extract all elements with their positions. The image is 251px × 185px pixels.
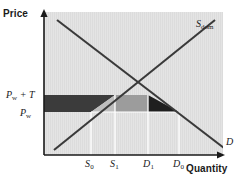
- price-label-pw-plus-t-sub: w: [12, 94, 17, 102]
- supply-curve-label: Sdom: [196, 18, 213, 29]
- x-tick-label-d1-text: D: [143, 158, 150, 169]
- x-tick-label-s1-sub: 1: [115, 163, 119, 171]
- price-label-pw-plus-t-suffix: + T: [17, 89, 34, 100]
- supply-curve-label-sub: dom: [201, 23, 213, 31]
- price-label-pw: Pw: [20, 107, 31, 118]
- y-axis-title: Price: [3, 8, 28, 19]
- plot-background: [44, 12, 223, 155]
- x-tick-label-d1: D1: [143, 158, 154, 169]
- x-tick-label-d1-sub: 1: [151, 163, 155, 171]
- x-tick-label-d0-text: D: [173, 158, 180, 169]
- x-tick-label-d0: D0: [173, 158, 184, 169]
- demand-curve-label-text: D: [226, 136, 233, 147]
- x-tick-label-s0-sub: 0: [90, 163, 94, 171]
- x-axis-title: Quantity: [186, 163, 227, 174]
- price-label-pw-sub: w: [26, 112, 31, 120]
- x-tick-label-d0-sub: 0: [181, 163, 185, 171]
- price-label-pw-plus-t: Pw + T: [6, 89, 34, 100]
- supply-demand-tariff-diagram: Price Quantity Sdom D Pw + T Pw S0 S1 D1…: [0, 0, 251, 185]
- x-tick-label-s0: S0: [85, 158, 94, 169]
- x-tick-label-s1: S1: [110, 158, 119, 169]
- demand-curve-label: D: [226, 136, 233, 147]
